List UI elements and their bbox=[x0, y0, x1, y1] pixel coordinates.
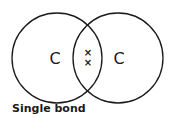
shared-electron-cross-bottom: × bbox=[84, 57, 92, 68]
left-atom-symbol: C bbox=[49, 49, 60, 68]
right-atom-symbol: C bbox=[113, 49, 124, 68]
bond-type-caption: Single bond bbox=[12, 102, 86, 115]
covalent-bond-diagram: C C × × bbox=[0, 0, 174, 118]
